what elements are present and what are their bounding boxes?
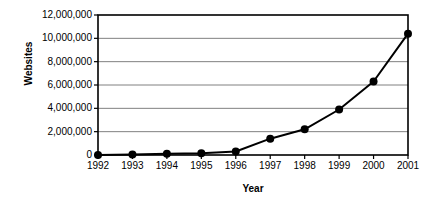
data-point-marker: [335, 106, 343, 114]
websites-growth-line-chart: Websites 02,000,0004,000,0006,000,0008,0…: [0, 0, 436, 204]
axis-ticks: [94, 15, 408, 159]
x-axis-title: Year: [97, 183, 409, 194]
plot-area: [0, 0, 436, 204]
data-point-marker: [404, 30, 412, 38]
data-point-marker: [232, 148, 240, 156]
data-line: [98, 34, 408, 155]
gridlines: [98, 38, 408, 131]
data-point-marker: [266, 135, 274, 143]
data-markers: [94, 30, 412, 159]
data-point-marker: [94, 151, 102, 159]
series-line: [98, 34, 408, 155]
x-tick-label: 2001: [388, 160, 428, 171]
data-point-marker: [128, 150, 136, 158]
data-point-marker: [370, 78, 378, 86]
data-point-marker: [301, 125, 309, 133]
data-point-marker: [163, 150, 171, 158]
data-point-marker: [197, 149, 205, 157]
